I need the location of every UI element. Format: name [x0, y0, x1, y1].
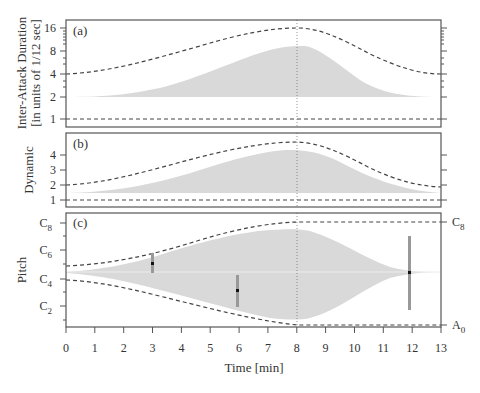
panel-c: C8 C6 C4 C2 C8 A0 (c) Pitch: [14, 213, 466, 335]
xtick-1: 1: [92, 341, 98, 355]
panel-c-right-ticks: [441, 222, 447, 325]
figure: 16 8 4 2 1 (a) Inter-Attack Duration [in…: [0, 0, 480, 393]
panel-b: 4 3 2 1 (b) Dynamic: [21, 133, 447, 207]
xtick-13: 13: [435, 341, 447, 355]
right-tick-c8: C8: [452, 215, 465, 232]
x-axis-ticks: [66, 327, 441, 333]
panel-b-fill: [66, 150, 441, 193]
xtick-8: 8: [294, 341, 300, 355]
panel-c-fill: [66, 229, 441, 319]
panel-b-right-ticks: [441, 155, 447, 200]
error-bar-t12: [408, 236, 411, 310]
xtick-9: 9: [323, 341, 329, 355]
xtick-5: 5: [207, 341, 213, 355]
ylabel-a-line2: [in units of 1/12 sec]: [28, 19, 43, 127]
x-axis: 0 1 2 3 4 5 6 7 8 9 10 11 12 13 Time [mi…: [63, 327, 447, 375]
xtick-4: 4: [178, 341, 184, 355]
ylabel-b: Dynamic: [21, 146, 36, 194]
xtick-3: 3: [150, 341, 156, 355]
ytick-b-3: 3: [50, 163, 56, 177]
x-axis-title: Time [min]: [224, 360, 283, 375]
ytick-b-1: 1: [50, 193, 56, 207]
xtick-0: 0: [63, 341, 69, 355]
ytick-a-2: 2: [50, 90, 56, 104]
ytick-c-C8: C8: [39, 216, 52, 233]
panel-label-a: (a): [73, 23, 87, 38]
panel-a-left-ticks: [60, 28, 66, 119]
panel-b-left-ticks: [60, 155, 66, 200]
ytick-b-4: 4: [50, 148, 56, 162]
xtick-6: 6: [236, 341, 242, 355]
xtick-11: 11: [378, 341, 390, 355]
xtick-10: 10: [349, 341, 361, 355]
ytick-c-C4: C4: [39, 272, 52, 289]
ytick-c-C6: C6: [39, 243, 52, 260]
panel-a: 16 8 4 2 1 (a) Inter-Attack Duration [in…: [14, 16, 447, 129]
ylabel-a-line1: Inter-Attack Duration: [14, 16, 29, 129]
ytick-a-1: 1: [50, 112, 56, 126]
error-bar-t6: [236, 275, 239, 307]
ytick-a-4: 4: [50, 67, 56, 81]
xtick-7: 7: [265, 341, 271, 355]
panel-a-fill: [66, 46, 441, 97]
xtick-12: 12: [406, 341, 418, 355]
ytick-a-16: 16: [44, 21, 56, 35]
panel-a-right-ticks: [441, 28, 447, 119]
error-bar-t3: [151, 253, 154, 273]
ylabel-c: Pitch: [14, 256, 29, 283]
xtick-2: 2: [121, 341, 127, 355]
panel-c-left-ticks: [60, 223, 66, 320]
ytick-a-8: 8: [50, 44, 56, 58]
right-tick-a0: A0: [452, 318, 466, 335]
ytick-c-C2: C2: [39, 299, 52, 316]
panel-label-b: (b): [73, 136, 88, 151]
panel-label-c: (c): [73, 215, 87, 230]
ytick-b-2: 2: [50, 178, 56, 192]
